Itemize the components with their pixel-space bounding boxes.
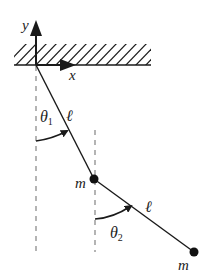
y-axis-label: y (20, 17, 29, 33)
mass-2 (190, 248, 199, 257)
mass-2-label: m (178, 257, 189, 273)
mass-1 (90, 175, 99, 184)
theta2-arc-arrow (95, 206, 131, 219)
rod-2 (94, 179, 194, 252)
theta2-label: θ2 (110, 224, 123, 243)
x-axis-label: x (68, 67, 76, 83)
mass-1-label: m (75, 175, 86, 191)
rod-1-length-label: ℓ (66, 107, 73, 124)
rod-2-length-label: ℓ (145, 198, 152, 215)
ceiling-hatch (4, 42, 168, 67)
double-pendulum-diagram: y x θ1 ℓ m θ2 ℓ m (0, 0, 209, 275)
theta1-label: θ1 (40, 108, 53, 127)
theta1-arc-arrow (36, 131, 67, 141)
